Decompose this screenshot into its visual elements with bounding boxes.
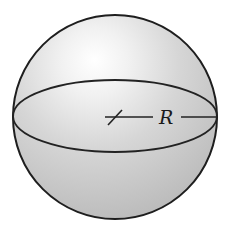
sphere-diagram: R xyxy=(0,0,236,235)
radius-label: R xyxy=(158,106,173,128)
